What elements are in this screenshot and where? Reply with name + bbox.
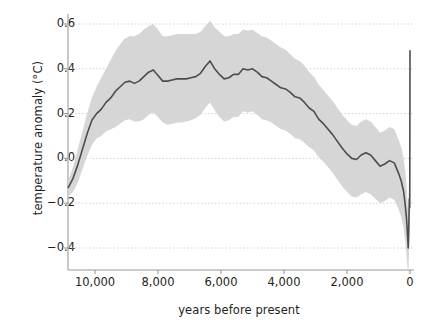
plot-area — [0, 0, 426, 323]
chart-figure: temperature anomaly (°C) years before pr… — [0, 0, 426, 323]
uncertainty-band — [68, 21, 410, 275]
